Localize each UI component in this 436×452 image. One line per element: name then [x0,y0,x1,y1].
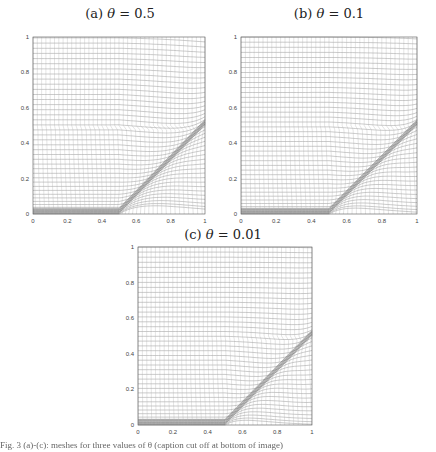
x-tick-label: 0.8 [378,218,387,224]
y-tick-label: 0.8 [126,280,135,286]
mesh-c: 00.20.40.60.8100.20.40.60.81 [126,244,315,435]
y-tick-label: 0.4 [21,140,30,146]
y-tick-label: 0.6 [229,105,238,111]
mesh-a: 00.20.40.60.8100.20.40.60.81 [21,34,208,224]
y-tick-label: 0.8 [229,69,238,75]
x-tick-label: 0.2 [63,218,72,224]
figure-caption: Fig. 3 (a)-(c): meshes for three values … [0,440,436,450]
x-tick-label: 1 [203,218,207,224]
y-tick-label: 1 [234,34,238,40]
x-tick-label: 0 [136,429,140,435]
y-tick-label: 1 [26,34,30,40]
y-tick-label: 0 [26,211,30,217]
y-tick-label: 0 [131,422,135,428]
x-tick-label: 0.2 [169,429,178,435]
x-tick-label: 0.6 [342,218,351,224]
y-tick-label: 0.2 [126,386,135,392]
x-tick-label: 0.6 [132,218,141,224]
y-tick-label: 0.2 [229,176,238,182]
mesh-plot-a: 00.20.40.60.8100.20.40.60.8100.20.40.60.… [0,0,436,452]
y-tick-label: 1 [131,244,135,250]
x-tick-label: 1 [310,429,314,435]
x-tick-label: 1 [415,218,419,224]
y-tick-label: 0.4 [229,140,238,146]
y-tick-label: 0.4 [126,351,135,357]
x-tick-label: 0.8 [166,218,175,224]
x-tick-label: 0.8 [273,429,282,435]
x-tick-label: 0.4 [307,218,316,224]
y-tick-label: 0.8 [21,69,30,75]
y-tick-label: 0.2 [21,176,30,182]
x-tick-label: 0.4 [203,429,212,435]
y-tick-label: 0 [234,211,238,217]
x-tick-label: 0.6 [238,429,247,435]
mesh-b: 00.20.40.60.8100.20.40.60.81 [229,34,420,224]
y-tick-label: 0.6 [126,315,135,321]
y-tick-label: 0.6 [21,105,30,111]
x-tick-label: 0.2 [272,218,281,224]
x-tick-label: 0 [31,218,35,224]
x-tick-label: 0.4 [98,218,107,224]
x-tick-label: 0 [239,218,243,224]
